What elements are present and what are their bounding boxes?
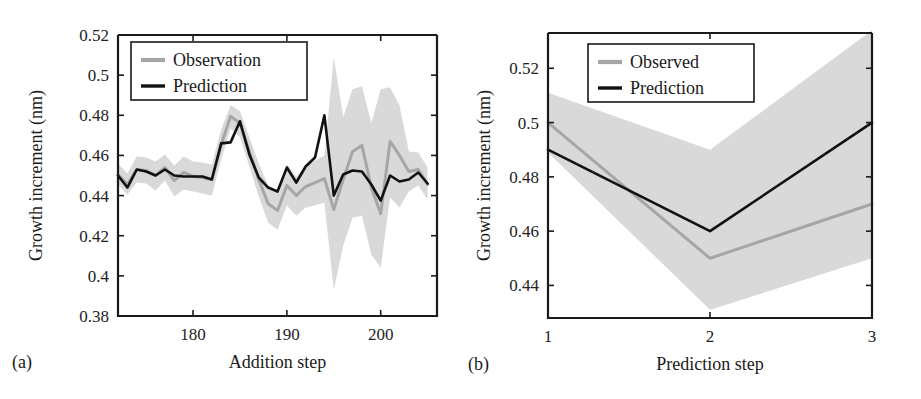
y-tick-label: 0.5	[518, 114, 539, 133]
x-tick-label: 2	[706, 327, 715, 346]
panel-tag: (a)	[12, 352, 32, 373]
panel-tag: (b)	[468, 354, 489, 375]
x-tick-label: 180	[180, 325, 206, 344]
chart-a: 0.380.40.420.440.460.480.50.52180190200A…	[0, 0, 460, 399]
panel-b: 0.440.460.480.50.52123Prediction stepGro…	[460, 0, 921, 399]
y-tick-label: 0.5	[88, 66, 109, 85]
y-tick-label: 0.48	[79, 106, 109, 125]
y-tick-label: 0.38	[79, 307, 109, 326]
x-axis-title: Prediction step	[656, 354, 763, 374]
x-tick-label: 1	[544, 327, 553, 346]
y-tick-label: 0.46	[509, 222, 539, 241]
x-tick-label: 200	[368, 325, 394, 344]
x-tick-label: 3	[868, 327, 877, 346]
chart-b: 0.440.460.480.50.52123Prediction stepGro…	[460, 0, 921, 399]
legend: ObservationPrediction	[131, 42, 307, 100]
y-tick-label: 0.46	[79, 146, 109, 165]
legend-label-prediction: Prediction	[173, 76, 247, 96]
y-tick-label: 0.44	[79, 187, 109, 206]
y-tick-label: 0.44	[509, 276, 539, 295]
y-tick-label: 0.52	[509, 59, 539, 78]
y-tick-label: 0.4	[88, 267, 110, 286]
y-axis-title: Growth increment (nm)	[26, 90, 47, 261]
legend-label-observed: Observed	[630, 52, 699, 72]
panel-a: 0.380.40.420.440.460.480.50.52180190200A…	[0, 0, 460, 399]
y-tick-label: 0.42	[79, 227, 109, 246]
legend: ObservedPrediction	[588, 44, 754, 102]
y-tick-label: 0.52	[79, 26, 109, 45]
y-axis-title: Growth increment (nm)	[474, 90, 495, 261]
x-axis-title: Addition step	[229, 352, 327, 372]
legend-label-observation: Observation	[173, 50, 261, 70]
legend-label-prediction: Prediction	[630, 78, 704, 98]
x-tick-label: 190	[274, 325, 300, 344]
figure-container: 0.380.40.420.440.460.480.50.52180190200A…	[0, 0, 921, 399]
y-tick-label: 0.48	[509, 168, 539, 187]
